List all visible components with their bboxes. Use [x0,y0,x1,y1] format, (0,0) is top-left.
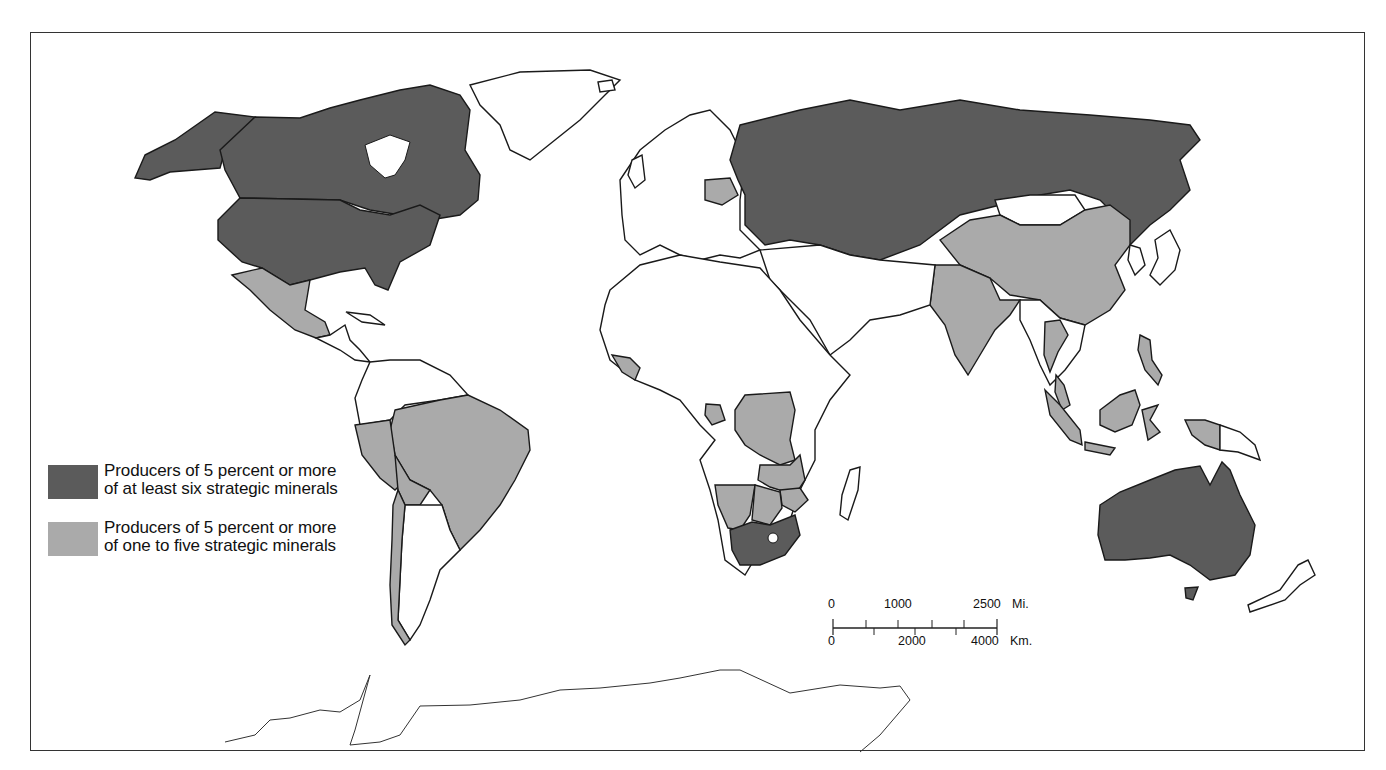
legend-item-light: Producers of 5 percent or more of one to… [48,519,338,556]
scale-mi-0: 0 [828,597,835,611]
region-lesotho [768,533,778,543]
region-borneo [1100,390,1140,432]
region-irian-jaya [1185,420,1220,450]
region-japan [1150,230,1180,285]
legend-label-light-line1: Producers of 5 percent or more [104,519,336,537]
scale-km-0: 0 [828,634,835,648]
scale-mi-1000: 1000 [884,597,912,611]
world-map [0,0,1386,770]
legend-label-dark-line1: Producers of 5 percent or more [104,462,338,480]
scale-km-2000: 2000 [898,634,926,648]
region-australia [1098,462,1255,580]
region-madagascar [840,467,860,520]
region-sulawesi [1142,405,1160,440]
region-new-zealand [1248,560,1315,612]
region-java [1085,442,1115,455]
legend-label-light: Producers of 5 percent or more of one to… [104,519,336,555]
region-papua-new-guinea [1220,425,1260,460]
legend-swatch-dark [48,465,98,499]
legend-label-light-line2: of one to five strategic minerals [104,537,336,555]
region-cuba [346,312,385,325]
legend-swatch-light [48,522,98,556]
scale-mi-2500: 2500 [973,597,1001,611]
scale-km-unit: Km. [1010,634,1032,648]
region-antarctica [225,670,910,752]
scale-mi-unit: Mi. [1012,597,1029,611]
legend-item-dark: Producers of 5 percent or more of at lea… [48,462,338,499]
region-tasmania [1185,587,1198,600]
region-iceland [598,80,615,92]
scale-km-4000: 4000 [971,634,999,648]
legend: Producers of 5 percent or more of at lea… [48,462,338,576]
scale-bar: 0 1000 2500 Mi. 0 2000 4000 Km. [826,597,1026,657]
region-korea [1128,245,1145,275]
region-philippines [1138,335,1162,385]
region-greenland [470,70,620,160]
legend-label-dark: Producers of 5 percent or more of at lea… [104,462,338,498]
legend-label-dark-line2: of at least six strategic minerals [104,480,338,498]
